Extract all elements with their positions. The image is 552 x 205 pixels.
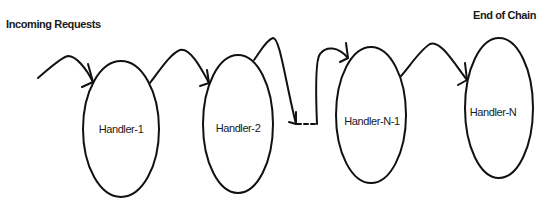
chain-diagram: Incoming Requests End of Chain Handler-1… [0,0,552,205]
incoming-arrow [38,56,93,82]
handler-1-label: Handler-1 [99,123,144,135]
arrowhead-icon [200,70,209,86]
diagram-shapes [0,0,552,205]
arrow-h1-h2 [150,50,209,83]
handler-n-1-label: Handler-N-1 [344,115,400,127]
handler-n-label: Handler-N [470,106,517,118]
end-of-chain-label: End of Chain [473,9,536,21]
incoming-requests-label: Incoming Requests [6,18,101,30]
arrow-hn1-hn [401,43,467,80]
handler-2-label: Handler-2 [216,122,261,134]
arrow-h2-ellipsis [254,38,296,124]
